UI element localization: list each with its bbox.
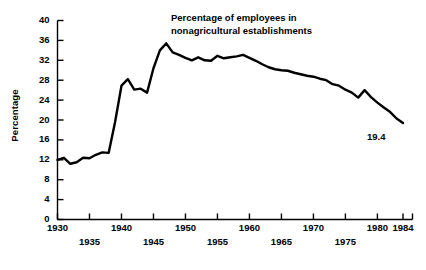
y-tick-label: 12 xyxy=(28,154,50,164)
y-tick-label: 32 xyxy=(28,55,50,65)
x-tick-label: 1980 xyxy=(363,223,391,233)
y-tick-label: 40 xyxy=(28,15,50,25)
x-tick-label: 1945 xyxy=(139,237,167,247)
x-tick-label: 1960 xyxy=(235,223,263,233)
chart-figure: Percentage Percentage of employees in no… xyxy=(0,0,426,270)
y-tick-label: 36 xyxy=(28,35,50,45)
x-tick-label: 1935 xyxy=(75,237,103,247)
data-series-line xyxy=(58,43,404,163)
y-tick-label: 8 xyxy=(28,174,50,184)
x-tick-label: 1970 xyxy=(299,223,327,233)
y-tick-label: 24 xyxy=(28,95,50,105)
x-tick-label: 1955 xyxy=(203,237,231,247)
x-tick-label: 1965 xyxy=(267,237,295,247)
y-tick-label: 28 xyxy=(28,75,50,85)
y-tick-label: 20 xyxy=(28,115,50,125)
y-tick-label: 16 xyxy=(28,134,50,144)
x-tick-label: 1940 xyxy=(107,223,135,233)
x-tick-label: 1930 xyxy=(44,223,72,233)
x-tick-label: 1975 xyxy=(331,237,359,247)
x-tick-label: 1950 xyxy=(171,223,199,233)
y-tick-label: 4 xyxy=(28,194,50,204)
x-tick-label: 1984 xyxy=(389,223,417,233)
